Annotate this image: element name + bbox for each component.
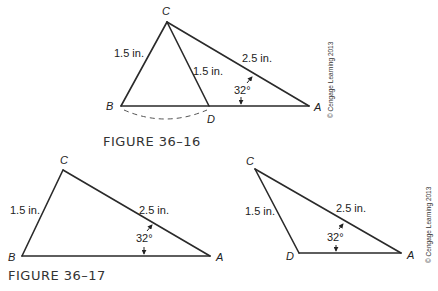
angle-arrow-top-icon (147, 225, 152, 231)
side-dc-length: 1.5 in. (245, 205, 275, 217)
angle-arrow-top-icon (339, 224, 343, 229)
side-bc-length: 1.5 in. (114, 47, 144, 59)
vertex-b-label: B (106, 100, 113, 112)
dashed-arc (124, 110, 207, 119)
copyright-notice: © Cengage Learning 2013 (327, 41, 335, 118)
side-bc (121, 22, 167, 106)
vertex-a-label: A (406, 249, 414, 261)
vertex-c-label: C (246, 155, 254, 167)
angle-a-measure: 32° (327, 231, 344, 243)
figure-caption: FIGURE 36–16 (103, 134, 201, 149)
side-bc-length: 1.5 in. (10, 204, 40, 216)
vertex-d-label: D (286, 250, 294, 262)
figure-36-17-left-triangle: C B A 1.5 in. 2.5 in. 32° FIGURE 36–17 (8, 154, 223, 283)
copyright-notice: © Cengage Learning 2013 (425, 186, 433, 263)
figure-36-17-right-triangle: C D A 1.5 in. 2.5 in. 32° © Cengage Lear… (245, 155, 433, 263)
figure-caption: FIGURE 36–17 (8, 268, 106, 283)
angle-arrow-top-icon (247, 77, 252, 83)
side-ca-length: 2.5 in. (336, 202, 366, 214)
figure-36-16: C B D A 1.5 in. 1.5 in. 2.5 in. 32° FIGU… (103, 5, 335, 149)
vertex-b-label: B (8, 251, 15, 263)
geometry-figures: C B D A 1.5 in. 1.5 in. 2.5 in. 32° FIGU… (0, 0, 438, 291)
vertex-a-label: A (215, 251, 223, 263)
angle-a-measure: 32° (136, 232, 153, 244)
vertex-c-label: C (162, 5, 170, 17)
vertex-d-label: D (207, 113, 215, 125)
side-cd-length: 1.5 in. (193, 65, 223, 77)
side-ca-length: 2.5 in. (242, 52, 272, 64)
vertex-c-label: C (60, 154, 68, 166)
angle-a-measure: 32° (234, 84, 251, 96)
side-ca-length: 2.5 in. (139, 204, 169, 216)
vertex-a-label: A (313, 101, 321, 113)
